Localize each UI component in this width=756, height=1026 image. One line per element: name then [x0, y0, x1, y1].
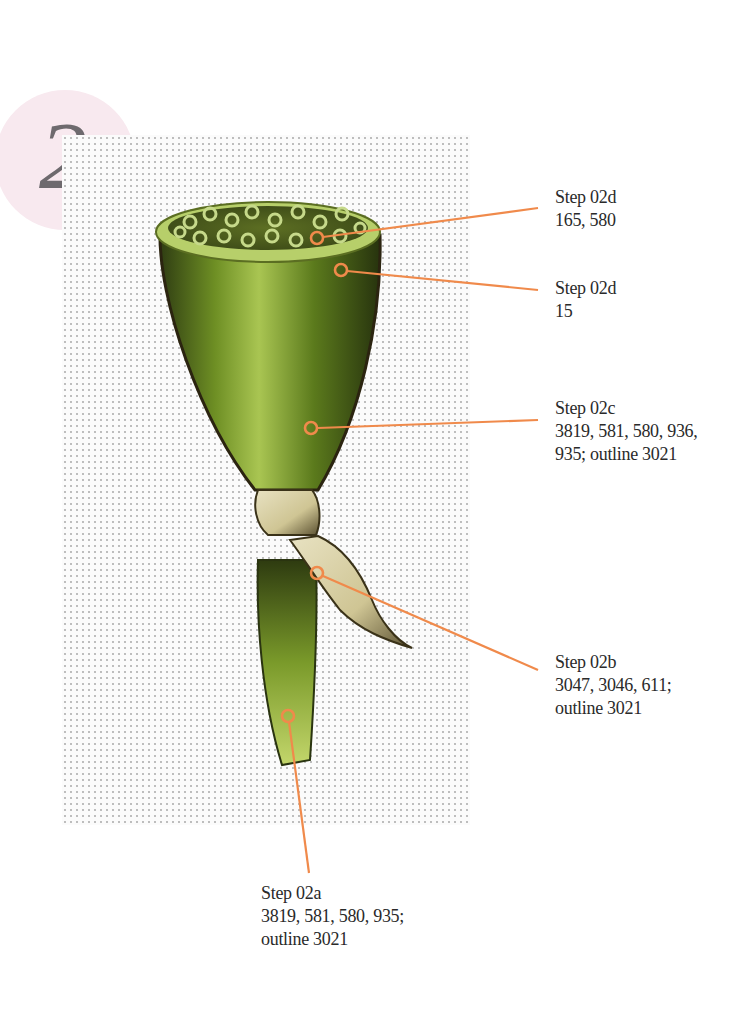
embroidery-illustration — [0, 0, 756, 1026]
sheath-binding — [255, 490, 319, 535]
label-thread-colors: 3819, 581, 580, 935; — [261, 905, 404, 928]
label-thread-colors: 3819, 581, 580, 936, — [555, 420, 698, 443]
label-title: Step 02d — [555, 277, 616, 300]
stem — [258, 560, 317, 765]
label-title: Step 02b — [555, 651, 672, 674]
label-thread-colors: 935; outline 3021 — [555, 443, 698, 466]
label-title: Step 02c — [555, 397, 698, 420]
label-step-02a: Step 02a 3819, 581, 580, 935; outline 30… — [261, 882, 404, 951]
label-step-02d-rim: Step 02d 15 — [555, 277, 616, 323]
label-title: Step 02a — [261, 882, 404, 905]
label-thread-colors: outline 3021 — [261, 928, 404, 951]
label-thread-colors: 165, 580 — [555, 209, 616, 232]
label-thread-colors: 15 — [555, 300, 616, 323]
label-step-02c: Step 02c 3819, 581, 580, 936, 935; outli… — [555, 397, 698, 466]
label-step-02b: Step 02b 3047, 3046, 611; outline 3021 — [555, 651, 672, 720]
label-step-02d-seeds: Step 02d 165, 580 — [555, 186, 616, 232]
label-title: Step 02d — [555, 186, 616, 209]
label-thread-colors: outline 3021 — [555, 697, 672, 720]
label-thread-colors: 3047, 3046, 611; — [555, 674, 672, 697]
